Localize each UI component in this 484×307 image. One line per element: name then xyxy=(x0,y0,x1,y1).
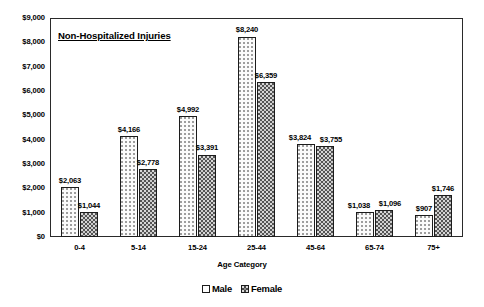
bar-male-0-4 xyxy=(61,187,79,237)
bar-male-65-74 xyxy=(356,212,374,237)
x-axis-title: Age Category xyxy=(0,260,484,269)
x-axis-tick-label: 15-24 xyxy=(168,243,227,252)
x-axis-tick-label: 25-44 xyxy=(227,243,286,252)
legend-entry-female: Female xyxy=(241,283,282,294)
bar-male-5-14 xyxy=(120,136,138,237)
legend-entry-male: Male xyxy=(202,283,232,294)
y-axis-tick-label: $2,000 xyxy=(0,184,45,192)
legend-swatch-female-icon xyxy=(241,285,249,293)
bar-female-65-74 xyxy=(375,210,393,237)
bar-value-label: $2,063 xyxy=(50,176,90,185)
bar-female-75+ xyxy=(434,195,452,237)
y-axis-tick-label: $0 xyxy=(0,233,45,241)
bar-female-5-14 xyxy=(139,169,157,237)
y-axis-tick-label: $7,000 xyxy=(0,63,45,71)
bar-value-label: $3,391 xyxy=(187,143,227,152)
y-axis-tick-label: $9,000 xyxy=(0,14,45,22)
bar-value-label: $6,359 xyxy=(246,71,286,80)
x-axis-tick-label: 5-14 xyxy=(109,243,168,252)
bar-value-label: $1,044 xyxy=(69,201,109,210)
x-axis-tick-label: 65-74 xyxy=(345,243,404,252)
legend-label-male: Male xyxy=(212,283,232,294)
y-axis-tick-label: $8,000 xyxy=(0,38,45,46)
legend-label-female: Female xyxy=(251,283,282,294)
bar-value-label: $2,778 xyxy=(128,158,168,167)
x-axis-tick-label: 75+ xyxy=(404,243,463,252)
y-axis-tick-label: $5,000 xyxy=(0,111,45,119)
bar-value-label: $4,166 xyxy=(109,125,149,134)
bar-male-75+ xyxy=(415,215,433,237)
bar-value-label: $3,755 xyxy=(311,135,351,144)
bar-male-25-44 xyxy=(238,37,256,238)
bar-value-label: $4,992 xyxy=(168,105,208,114)
y-axis-tick-label: $6,000 xyxy=(0,87,45,95)
legend-swatch-male-icon xyxy=(202,285,210,293)
x-axis-tick-label: 45-64 xyxy=(286,243,345,252)
bar-chart: $0$1,000$2,000$3,000$4,000$5,000$6,000$7… xyxy=(0,0,484,307)
bar-value-label: $907 xyxy=(404,204,444,213)
chart-legend: Male Female xyxy=(0,283,484,294)
bar-female-45-64 xyxy=(316,146,334,237)
bar-female-0-4 xyxy=(80,212,98,237)
y-axis-tick-label: $1,000 xyxy=(0,209,45,217)
y-axis-tick-label: $4,000 xyxy=(0,136,45,144)
bar-value-label: $1,746 xyxy=(423,184,463,193)
bar-female-25-44 xyxy=(257,82,275,237)
bar-female-15-24 xyxy=(198,155,216,238)
y-axis-tick-label: $3,000 xyxy=(0,160,45,168)
bar-male-45-64 xyxy=(297,144,315,237)
panel-title: Non-Hospitalized Injuries xyxy=(58,30,171,41)
bar-value-label: $8,240 xyxy=(227,25,267,34)
x-axis-tick-label: 0-4 xyxy=(50,243,109,252)
bar-male-15-24 xyxy=(179,116,197,237)
